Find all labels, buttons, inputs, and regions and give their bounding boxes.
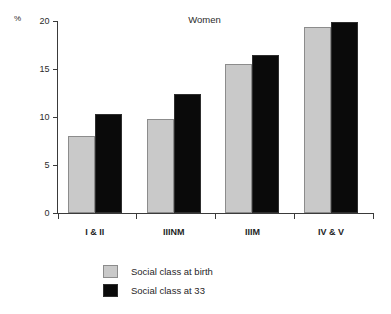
bar-at33 <box>252 55 279 212</box>
bar-at33 <box>95 114 122 213</box>
x-tick-mark <box>58 213 59 219</box>
legend-item-birth: Social class at birth <box>103 262 213 281</box>
legend-item-at33: Social class at 33 <box>103 281 213 300</box>
y-tick-label: 5 <box>44 160 49 170</box>
bar-chart: % Women 05101520 I & IIIIINMIIIMIV & V S… <box>0 0 391 314</box>
plot-area: 05101520 I & IIIIINMIIIMIV & V <box>58 21 373 213</box>
bar-birth <box>147 119 174 213</box>
bar-at33 <box>174 94 201 213</box>
x-tick-mark <box>136 213 137 219</box>
legend-label-birth: Social class at birth <box>131 266 213 277</box>
x-category-label: I & II <box>85 227 104 237</box>
y-tick-mark <box>53 21 58 22</box>
y-tick-label: 20 <box>39 16 49 26</box>
y-tick-label: 10 <box>39 112 49 122</box>
x-tick-mark <box>215 213 216 219</box>
bar-birth <box>68 136 95 213</box>
bar-birth <box>225 64 252 212</box>
legend-label-at33: Social class at 33 <box>131 285 205 296</box>
bar-birth <box>304 27 331 213</box>
bar-at33 <box>331 22 358 213</box>
x-category-label: IIINM <box>163 227 185 237</box>
y-tick-mark <box>53 117 58 118</box>
y-tick-mark <box>53 165 58 166</box>
y-tick-label: 15 <box>39 64 49 74</box>
legend-swatch-birth <box>103 265 118 278</box>
x-category-label: IV & V <box>318 227 344 237</box>
x-tick-mark <box>373 213 374 219</box>
y-tick-label: 0 <box>44 208 49 218</box>
y-tick-mark <box>53 69 58 70</box>
legend-swatch-at33 <box>103 284 118 297</box>
x-category-label: IIIM <box>245 227 260 237</box>
legend: Social class at birth Social class at 33 <box>103 262 213 300</box>
x-tick-mark <box>294 213 295 219</box>
